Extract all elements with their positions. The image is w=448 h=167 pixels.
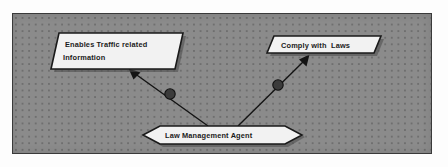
edge-line <box>238 60 305 126</box>
edge-decorator-circle-icon <box>165 89 175 99</box>
edge-decorator-circle-icon <box>273 80 283 90</box>
node-shape-parallelogram <box>51 33 183 69</box>
diagram-graphics: Enables Traffic related Information Comp… <box>0 0 448 167</box>
node-law-management-agent[interactable]: Law Management Agent <box>143 126 305 147</box>
node-label-line-1: Enables Traffic related <box>65 40 148 49</box>
node-comply-with-laws[interactable]: Comply with Laws <box>267 36 384 56</box>
edge-agent-to-traffic-info[interactable] <box>129 69 209 127</box>
edge-agent-to-comply-laws[interactable] <box>238 55 310 127</box>
node-label-line-2: Information <box>63 53 106 62</box>
node-enables-traffic-related-information[interactable]: Enables Traffic related Information <box>51 33 186 72</box>
diagram-screenshot: Enables Traffic related Information Comp… <box>0 0 448 167</box>
node-label-line-1: Comply with Laws <box>281 41 350 50</box>
node-label-line-1: Law Management Agent <box>165 131 253 140</box>
